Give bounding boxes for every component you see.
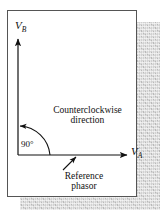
reference-phasor-line-2: phasor: [44, 182, 124, 192]
axis-label-vb-subscript: B: [22, 25, 27, 34]
reference-phasor-pointer: [63, 157, 76, 170]
counterclockwise-direction-annotation: Counterclockwise direction: [40, 106, 135, 126]
axis-label-vb-text: V: [15, 19, 22, 31]
counterclockwise-line-2: direction: [40, 116, 135, 126]
phasor-diagram-figure: VB VA 90° Counterclockwise direction Ref…: [0, 0, 165, 224]
reference-phasor-annotation: Reference phasor: [44, 172, 124, 192]
axis-label-vb: VB: [15, 20, 26, 34]
axis-label-va-text: V: [131, 145, 138, 157]
axis-label-va-subscript: A: [138, 151, 143, 160]
angle-label-90-degrees: 90°: [21, 140, 34, 149]
axis-label-va: VA: [131, 146, 142, 160]
